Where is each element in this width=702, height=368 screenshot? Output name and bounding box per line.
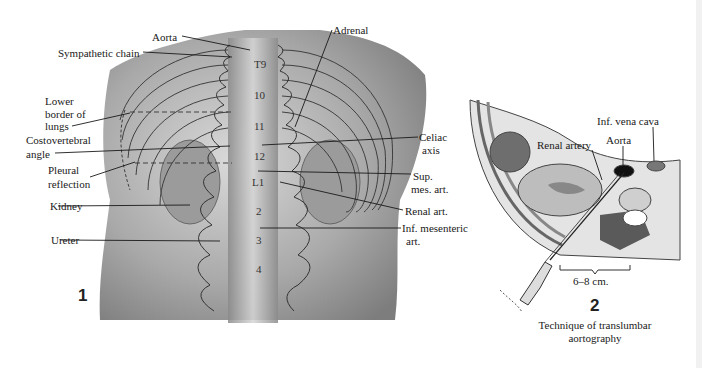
label-pleural-2: reflection	[48, 178, 90, 190]
label-distance: 6–8 cm.	[573, 275, 608, 287]
vertebra-l2: 2	[256, 205, 262, 217]
vertebra-t11: 11	[254, 120, 265, 132]
vertebra-l3: 3	[256, 234, 262, 246]
label-inf-vena-cava: Inf. vena cava	[597, 115, 659, 127]
vertebra-t9: T9	[254, 58, 266, 70]
label-lower-border-3: lungs	[45, 120, 69, 132]
label-costovertebral-2: angle	[26, 148, 50, 160]
label-adrenal: Adrenal	[333, 24, 368, 36]
label-celiac-1: Celiac	[419, 131, 447, 143]
label-ureter: Ureter	[51, 234, 79, 246]
label-lower-border-2: border of	[45, 108, 86, 120]
caption-line-1: Technique of translumbar	[520, 319, 670, 332]
vertebra-l1: L1	[252, 176, 264, 188]
vertebra-t10: 10	[254, 89, 265, 101]
label-inf-mesenteric-1: Inf. mesenteric	[402, 222, 468, 234]
vertebra-t12: 12	[254, 150, 265, 162]
label-renal-artery: Renal artery	[537, 139, 591, 151]
label-aorta: Aorta	[152, 31, 177, 43]
caption-line-2: aortography	[520, 332, 670, 345]
label-lower-border-1: Lower	[45, 95, 74, 107]
label-pleural-1: Pleural	[48, 164, 79, 176]
label-aorta-fig2: Aorta	[606, 134, 631, 146]
label-celiac-2: axis	[422, 144, 440, 156]
label-renal-art: Renal art.	[405, 205, 448, 217]
label-sup-mes-2: mes. art.	[411, 183, 449, 195]
label-costovertebral-1: Costovertebral	[26, 134, 91, 146]
figure-number-1: 1	[78, 286, 87, 306]
label-sup-mes-1: Sup.	[413, 170, 433, 182]
figure-number-2: 2	[590, 296, 599, 316]
label-sympathetic-chain: Sympathetic chain	[58, 47, 140, 59]
label-kidney: Kidney	[50, 200, 82, 212]
vertebra-l4: 4	[256, 263, 262, 275]
label-inf-mesenteric-2: art.	[406, 235, 420, 247]
figure-caption: Technique of translumbar aortography	[520, 319, 670, 345]
